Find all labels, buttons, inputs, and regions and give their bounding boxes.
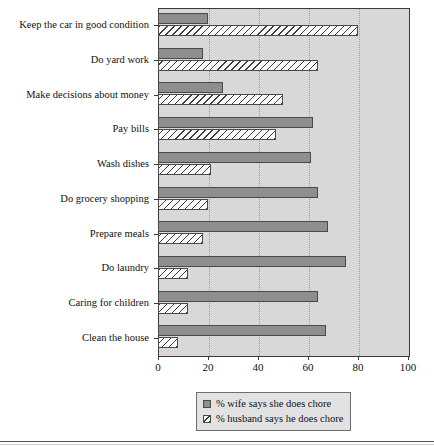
bar-husband-1 [158, 25, 358, 36]
y-axis-label-1: Keep the car in good condition [0, 19, 149, 31]
x-axis-tick-20 [208, 356, 209, 360]
bar-group-9 [158, 286, 408, 321]
bar-group-6 [158, 182, 408, 217]
bar-wife-6 [158, 187, 318, 198]
husband-swatch-icon [203, 415, 211, 423]
page-divider [0, 441, 434, 442]
bar-husband-5 [158, 164, 211, 175]
x-axis-tick-0 [158, 356, 159, 360]
x-axis-tick-80 [358, 356, 359, 360]
bar-group-5 [158, 147, 408, 182]
bar-rows [158, 8, 408, 355]
y-axis-labels: Keep the car in good conditionDo yard wo… [0, 8, 154, 355]
y-axis-label-6: Do grocery shopping [0, 193, 149, 205]
wife-swatch-icon [203, 400, 211, 408]
y-axis-label-7: Prepare meals [0, 228, 149, 240]
x-axis-tick-label-60: 60 [288, 361, 328, 374]
y-axis-label-4: Pay bills [0, 123, 149, 135]
y-axis-label-9: Caring for children [0, 297, 149, 309]
bar-wife-7 [158, 221, 328, 232]
bar-group-8 [158, 251, 408, 286]
chart-legend: % wife says she does chore % husband say… [196, 392, 351, 431]
grouped-bar-chart: Keep the car in good conditionDo yard wo… [0, 0, 434, 447]
bar-husband-4 [158, 129, 276, 140]
bar-husband-3 [158, 94, 283, 105]
bar-husband-9 [158, 303, 188, 314]
bar-wife-3 [158, 82, 223, 93]
bar-group-4 [158, 112, 408, 147]
legend-item-husband: % husband says he does chore [203, 411, 343, 426]
bar-wife-2 [158, 48, 203, 59]
bar-husband-10 [158, 337, 178, 348]
bar-wife-9 [158, 291, 318, 302]
x-axis-tick-label-100: 100 [388, 361, 428, 374]
bar-group-2 [158, 43, 408, 78]
x-axis-tick-label-80: 80 [338, 361, 378, 374]
x-axis: 020406080100 [158, 356, 410, 386]
bar-husband-8 [158, 268, 188, 279]
x-axis-tick-100 [408, 356, 409, 360]
bar-group-10 [158, 320, 408, 355]
bar-wife-8 [158, 256, 346, 267]
bar-group-3 [158, 77, 408, 112]
x-axis-tick-label-20: 20 [188, 361, 228, 374]
legend-label-wife: % wife says she does chore [216, 397, 331, 410]
x-axis-tick-40 [258, 356, 259, 360]
y-axis-label-10: Clean the house [0, 332, 149, 344]
legend-label-husband: % husband says he does chore [216, 412, 343, 425]
x-axis-tick-label-0: 0 [138, 361, 178, 374]
bar-wife-1 [158, 13, 208, 24]
bar-wife-5 [158, 152, 311, 163]
bar-wife-4 [158, 117, 313, 128]
y-axis-label-8: Do laundry [0, 262, 149, 274]
bar-husband-7 [158, 233, 203, 244]
bar-husband-2 [158, 60, 318, 71]
x-axis-tick-label-40: 40 [238, 361, 278, 374]
bar-wife-10 [158, 325, 326, 336]
y-axis-label-3: Make decisions about money [0, 89, 149, 101]
legend-item-wife: % wife says she does chore [203, 396, 343, 411]
bar-group-1 [158, 8, 408, 43]
bar-group-7 [158, 216, 408, 251]
x-axis-tick-60 [308, 356, 309, 360]
page-divider-shadow [0, 444, 434, 445]
y-axis-label-5: Wash dishes [0, 158, 149, 170]
y-axis-label-2: Do yard work [0, 54, 149, 66]
bar-husband-6 [158, 199, 208, 210]
